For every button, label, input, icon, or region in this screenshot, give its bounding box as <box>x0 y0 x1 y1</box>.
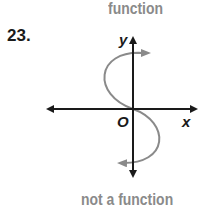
x-axis-label: x <box>181 113 191 130</box>
graph: y x O <box>0 0 209 212</box>
origin-label: O <box>117 113 129 130</box>
s-curve <box>104 53 159 163</box>
annotation-not-a-function: not a function <box>81 190 173 210</box>
y-axis-label: y <box>118 31 128 48</box>
